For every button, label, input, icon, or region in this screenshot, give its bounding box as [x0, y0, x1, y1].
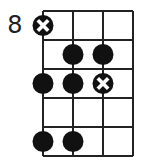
note-dot-icon: [63, 73, 84, 94]
note-dot-icon: [93, 44, 114, 65]
root-marker-x-icon: [33, 15, 54, 36]
fretboard-diagram: 8: [0, 0, 146, 167]
note-dot-icon: [63, 131, 84, 152]
root-marker-x-icon: [93, 73, 114, 94]
note-dot-icon: [33, 73, 54, 94]
note-dot-icon: [63, 44, 84, 65]
note-dot-icon: [33, 131, 54, 152]
fretboard-grid: [0, 0, 146, 167]
